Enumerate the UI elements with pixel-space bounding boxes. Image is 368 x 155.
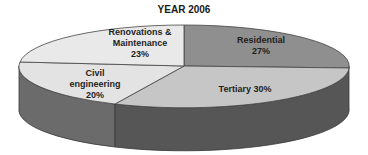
label-renovations-value: 23%: [85, 49, 195, 60]
label-renovations-maintenance: Renovations & Maintenance 23%: [85, 27, 195, 60]
label-civil-line1: Civil: [55, 68, 135, 79]
label-civil-value: 20%: [55, 90, 135, 101]
label-residential: Residential 27%: [196, 35, 326, 57]
label-renovations-line2: Maintenance: [85, 38, 195, 49]
label-civil-line2: engineering: [55, 79, 135, 90]
label-tertiary-text: Tertiary 30%: [170, 84, 320, 95]
label-civil-engineering: Civil engineering 20%: [55, 68, 135, 101]
label-residential-name: Residential: [196, 35, 326, 46]
label-renovations-line1: Renovations &: [85, 27, 195, 38]
label-residential-value: 27%: [196, 46, 326, 57]
label-tertiary: Tertiary 30%: [170, 84, 320, 95]
